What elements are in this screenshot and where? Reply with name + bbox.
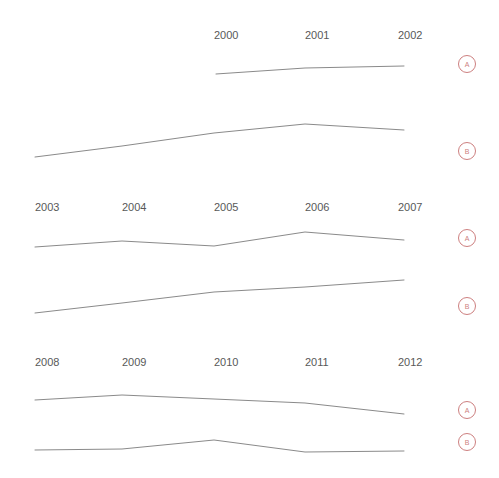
- badge-letter: B: [465, 303, 470, 310]
- badge-letter: B: [465, 148, 470, 155]
- series-lines-layer: [35, 66, 404, 452]
- series-line-b: [35, 280, 404, 313]
- x-tick-label: 2008: [35, 356, 59, 368]
- x-tick-label: 2009: [122, 356, 146, 368]
- x-tick-label: 2001: [305, 29, 329, 41]
- series-badge-b[interactable]: B: [459, 298, 476, 315]
- x-tick-label: 2006: [305, 201, 329, 213]
- series-line-b: [35, 440, 404, 452]
- series-line-a: [35, 232, 404, 247]
- series-badge-a[interactable]: A: [459, 56, 476, 73]
- x-tick-label: 2004: [122, 201, 146, 213]
- series-line-b: [35, 124, 404, 157]
- x-axis-tick-labels-layer: 2000200120022003200420052006200720082009…: [35, 29, 422, 368]
- series-line-a: [216, 66, 404, 74]
- series-badge-a[interactable]: A: [459, 402, 476, 419]
- series-badge-b[interactable]: B: [459, 434, 476, 451]
- x-tick-label: 2012: [398, 356, 422, 368]
- series-badges-layer: ABABAB: [459, 56, 476, 451]
- small-multiples-line-chart: 2000200120022003200420052006200720082009…: [0, 0, 499, 478]
- x-tick-label: 2003: [35, 201, 59, 213]
- x-tick-label: 2000: [214, 29, 238, 41]
- badge-letter: A: [465, 61, 470, 68]
- series-badge-a[interactable]: A: [459, 230, 476, 247]
- series-line-a: [35, 395, 404, 414]
- chart-plot-area: 2000200120022003200420052006200720082009…: [0, 0, 499, 478]
- x-tick-label: 2005: [214, 201, 238, 213]
- x-tick-label: 2011: [305, 356, 329, 368]
- series-badge-b[interactable]: B: [459, 143, 476, 160]
- badge-letter: A: [465, 235, 470, 242]
- x-tick-label: 2007: [398, 201, 422, 213]
- x-tick-label: 2002: [398, 29, 422, 41]
- badge-letter: B: [465, 439, 470, 446]
- badge-letter: A: [465, 407, 470, 414]
- x-tick-label: 2010: [214, 356, 238, 368]
